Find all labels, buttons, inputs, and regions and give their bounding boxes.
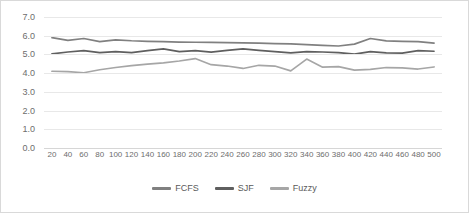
x-axis-tick-label: 80 <box>95 151 104 159</box>
y-axis-tick-label: 6.0 <box>22 31 35 40</box>
legend-item-fuzzy[interactable]: Fuzzy <box>270 184 317 193</box>
x-axis-tick-label: 440 <box>380 151 393 159</box>
series-line-fcfs <box>52 38 434 46</box>
legend-item-sjf[interactable]: SJF <box>215 184 254 193</box>
x-axis-tick-label: 200 <box>189 151 202 159</box>
chart-legend: FCFSSJFFuzzy <box>1 184 468 193</box>
gridline <box>44 73 442 74</box>
gridline <box>44 129 442 130</box>
gridline <box>44 17 442 18</box>
y-axis-tick-label: 2.0 <box>22 106 35 115</box>
x-axis-tick-label: 380 <box>332 151 345 159</box>
y-axis: 7.06.05.04.03.02.01.00.0 <box>1 1 41 213</box>
y-axis-tick-label: 5.0 <box>22 50 35 59</box>
x-axis: 2040608010012014016018020022024026028030… <box>44 151 442 165</box>
gridline <box>44 92 442 93</box>
gridline <box>44 54 442 55</box>
x-axis-tick-label: 220 <box>204 151 217 159</box>
gridline <box>44 36 442 37</box>
legend-label: SJF <box>238 184 254 193</box>
x-axis-tick-label: 460 <box>396 151 409 159</box>
y-axis-tick-label: 3.0 <box>22 87 35 96</box>
x-axis-tick-label: 420 <box>364 151 377 159</box>
x-axis-tick-label: 260 <box>236 151 249 159</box>
x-axis-tick-label: 500 <box>427 151 440 159</box>
legend-swatch-icon <box>270 187 289 190</box>
x-axis-tick-label: 140 <box>141 151 154 159</box>
x-axis-tick-label: 120 <box>125 151 138 159</box>
series-line-fuzzy <box>52 59 434 73</box>
series-line-sjf <box>52 49 434 54</box>
legend-label: FCFS <box>175 184 199 193</box>
y-axis-tick-label: 7.0 <box>22 13 35 22</box>
x-axis-tick-label: 320 <box>284 151 297 159</box>
y-axis-tick-label: 1.0 <box>22 125 35 134</box>
x-axis-tick-label: 180 <box>173 151 186 159</box>
x-axis-tick-label: 240 <box>220 151 233 159</box>
gridline <box>44 111 442 112</box>
x-axis-tick-label: 280 <box>252 151 265 159</box>
y-axis-tick-label: 4.0 <box>22 69 35 78</box>
x-axis-tick-label: 400 <box>348 151 361 159</box>
axis-baseline <box>44 148 442 149</box>
legend-label: Fuzzy <box>293 184 317 193</box>
legend-item-fcfs[interactable]: FCFS <box>152 184 199 193</box>
x-axis-tick-label: 480 <box>411 151 424 159</box>
legend-swatch-icon <box>152 187 171 190</box>
x-axis-tick-label: 300 <box>268 151 281 159</box>
x-axis-tick-label: 20 <box>48 151 57 159</box>
y-axis-tick-label: 0.0 <box>22 144 35 153</box>
legend-swatch-icon <box>215 187 234 190</box>
x-axis-tick-label: 60 <box>79 151 88 159</box>
x-axis-tick-label: 340 <box>300 151 313 159</box>
x-axis-tick-label: 360 <box>316 151 329 159</box>
x-axis-tick-label: 160 <box>157 151 170 159</box>
plot-area <box>44 17 442 148</box>
x-axis-tick-label: 100 <box>109 151 122 159</box>
x-axis-tick-label: 40 <box>63 151 72 159</box>
line-chart-figure: 7.06.05.04.03.02.01.00.0 204060801001201… <box>0 0 469 213</box>
